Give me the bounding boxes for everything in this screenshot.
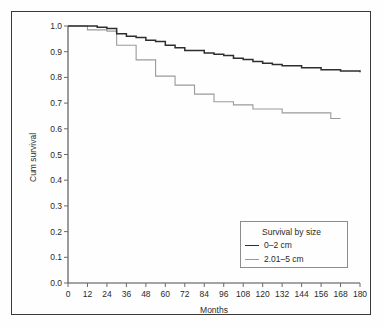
survival-curve-2-01-5-cm xyxy=(68,26,341,119)
legend-swatch-0-2-cm xyxy=(245,245,259,246)
legend-label: 0–2 cm xyxy=(264,241,292,250)
survival-chart-figure: 0.00.10.20.30.40.50.60.70.80.91.0 012243… xyxy=(0,0,384,328)
y-tick-label: 0.7 xyxy=(24,99,62,108)
legend-title: Survival by size xyxy=(262,227,321,237)
x-axis-title: Months xyxy=(154,305,274,315)
x-tick-label: 180 xyxy=(349,290,371,299)
y-tick-label: 0.2 xyxy=(24,228,62,237)
survival-curve-0-2-cm xyxy=(68,26,360,72)
y-tick-label: 1.0 xyxy=(24,22,62,31)
legend-entry: 0–2 cm xyxy=(245,241,292,250)
y-tick-label: 0.1 xyxy=(24,253,62,262)
legend-entry: 2.01–5 cm xyxy=(245,255,304,264)
y-tick-label: 0.3 xyxy=(24,202,62,211)
y-tick-label: 0.0 xyxy=(24,279,62,288)
legend-swatch-2-01-5-cm xyxy=(245,259,259,260)
y-axis-title: Cum survival xyxy=(28,132,38,181)
legend-label: 2.01–5 cm xyxy=(264,255,304,264)
y-tick-label: 0.9 xyxy=(24,48,62,57)
y-tick-label: 0.8 xyxy=(24,73,62,82)
